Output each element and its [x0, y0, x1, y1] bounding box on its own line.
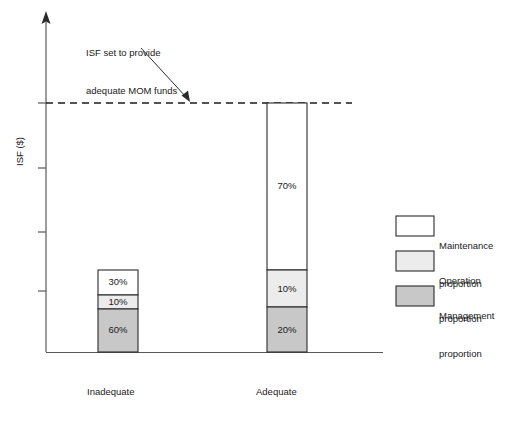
legend-label-line-2: proportion [439, 348, 494, 361]
legend-item-management[interactable]: Management proportion [439, 285, 494, 385]
chart-canvas [0, 0, 512, 422]
reference-line-annotation: ISF set to provide adequate MOM funds [86, 22, 177, 122]
bar-value-inadequate-operation: 10% [97, 296, 139, 309]
annotation-line-1: ISF set to provide [86, 47, 177, 60]
bar-value-inadequate-management: 60% [97, 324, 139, 337]
bar-value-adequate-operation: 10% [266, 283, 308, 296]
y-axis [42, 11, 51, 352]
chart-container: ISF ($) ISF set to provide adequate MOM … [0, 0, 512, 422]
bar-value-inadequate-maintenance: 30% [97, 276, 139, 289]
y-axis-label: ISF ($) [14, 96, 28, 166]
bar-adequate[interactable] [267, 103, 307, 352]
legend-swatch-management[interactable] [396, 286, 434, 306]
category-label-adequate: Adequate level of funding for MOM [256, 361, 301, 422]
category-label-inadequate: Inadequate level of funding for MOM [87, 361, 135, 422]
category-label-line-1: Inadequate [87, 386, 135, 399]
y-axis-ticks [38, 103, 46, 291]
legend-swatches [396, 216, 434, 306]
legend-label-line-1: Management [439, 310, 494, 323]
legend-swatch-maintenance[interactable] [396, 216, 434, 236]
annotation-line-2: adequate MOM funds [86, 85, 177, 98]
bar-value-adequate-maintenance: 70% [266, 180, 308, 193]
legend-swatch-operation[interactable] [396, 251, 434, 271]
bar-value-adequate-management: 20% [266, 324, 308, 337]
category-label-line-1: Adequate [256, 386, 301, 399]
